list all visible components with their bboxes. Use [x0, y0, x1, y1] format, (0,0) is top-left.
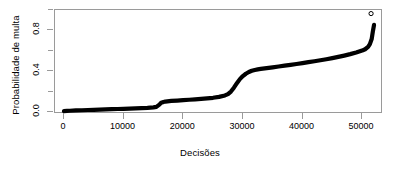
cumulative-probability-curve [64, 25, 374, 111]
x-tick-label-5: 50000 [331, 122, 391, 131]
x-tick-5 [361, 113, 362, 119]
y-axis-title: Probabilidade de multa [10, 0, 26, 130]
y-tick-1 [48, 91, 53, 92]
x-tick-1 [123, 113, 124, 119]
x-tick-4 [302, 113, 303, 119]
x-axis-title: Decisões [0, 147, 400, 158]
chart-figure: Probabilidade de multa 0.00.40.8 0100002… [0, 0, 400, 171]
plot-canvas [55, 10, 383, 114]
x-tick-label-2: 20000 [152, 122, 212, 131]
y-tick-4 [47, 29, 53, 30]
y-tick-5 [48, 9, 53, 10]
series-outlier-point [369, 11, 373, 15]
y-tick-label-0: 0.0 [32, 99, 41, 123]
x-tick-label-0: 0 [33, 122, 93, 131]
x-tick-2 [182, 113, 183, 119]
x-tick-label-4: 40000 [272, 122, 332, 131]
x-tick-0 [63, 113, 64, 119]
y-tick-0 [47, 111, 53, 112]
series-main-curve [64, 25, 374, 111]
y-tick-2 [47, 70, 53, 71]
plot-panel [54, 9, 382, 113]
y-tick-label-4: 0.8 [32, 17, 41, 41]
x-tick-3 [242, 113, 243, 119]
outlier-open-circle [369, 11, 373, 15]
y-tick-label-2: 0.4 [32, 58, 41, 82]
x-tick-label-3: 30000 [212, 122, 272, 131]
y-tick-3 [48, 50, 53, 51]
x-tick-label-1: 10000 [93, 122, 153, 131]
